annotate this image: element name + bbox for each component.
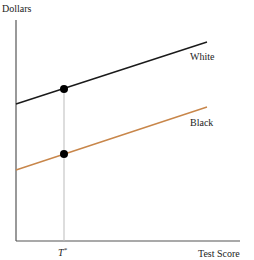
t-star-superscript: * [64,246,68,254]
black-point-marker [60,150,68,158]
black-series-line [16,107,207,170]
black-series-label: Black [190,117,213,128]
x-axis-label: Test Score [198,248,240,259]
y-axis-label: Dollars [2,3,32,14]
t-star-tick-label: T* [58,246,68,258]
white-point-marker [60,85,68,93]
white-series-label: White [190,51,215,62]
chart: Dollars Test Score White Black T* [0,0,254,260]
white-series-line [16,42,207,104]
